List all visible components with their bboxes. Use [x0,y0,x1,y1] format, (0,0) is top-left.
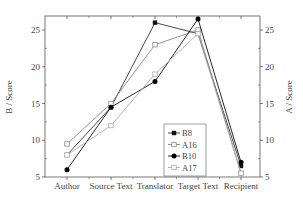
legend-label: A17 [182,163,197,173]
series-a16 [65,28,243,176]
data-point [65,167,70,172]
series-layer [65,16,244,175]
legend-label: B10 [182,151,196,161]
data-point [153,79,158,84]
data-point [196,31,200,35]
x-tick-label: Source Text [90,181,133,191]
plot-frame [45,16,260,177]
y-tick-label-left: 20 [31,62,41,72]
y-tick-label-left: 10 [31,135,41,145]
y-tick-label-right: 5 [265,172,270,182]
data-point [65,153,69,157]
y-tick-label-right: 10 [265,135,275,145]
legend-marker [172,154,177,159]
legend-label: A16 [182,140,197,150]
legend-label: B8 [182,128,192,138]
y-tick-label-right: 20 [265,62,275,72]
y-axis-title-right: A / Score [284,80,294,114]
series-line [67,34,241,174]
legend-marker [172,142,176,146]
legend-marker [172,165,176,169]
series-line [67,19,241,170]
x-tick-label: Author [54,181,80,191]
y-tick-label-left: 5 [36,172,41,182]
data-point [153,43,157,47]
data-point [109,123,113,127]
legend-marker [172,131,176,135]
data-point [196,16,201,21]
data-point [153,20,157,24]
x-tick-label: Target Text [178,181,219,191]
series-a17 [65,31,243,175]
legend: B8A16B10A17 [164,124,206,176]
data-point [239,171,243,175]
x-tick-label: Recipient [224,181,259,191]
y-tick-label-right: 25 [265,25,275,35]
y-axis-title-left: B / Score [4,80,14,114]
y-tick-label-left: 15 [31,99,41,109]
y-tick-label-left: 25 [31,25,41,35]
data-point [239,160,244,165]
y-tick-label-right: 15 [265,99,275,109]
data-point [109,105,114,110]
x-tick-label: Translator [137,181,174,191]
data-point [65,142,69,146]
series-line [67,30,241,173]
data-point [153,72,157,76]
line-chart: 551010151520202525AuthorSource TextTrans… [0,0,303,198]
